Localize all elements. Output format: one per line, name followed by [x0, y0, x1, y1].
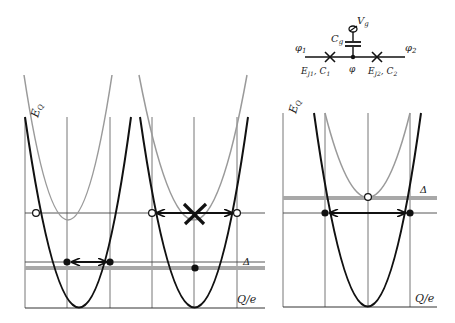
- phi-label: φ: [349, 64, 356, 74]
- left-energy-plot: EQ Δ Q/e: [24, 75, 265, 308]
- state-point-filled: [406, 209, 413, 216]
- gate-capacitor-icon: [345, 42, 361, 46]
- state-point-filled: [321, 209, 328, 216]
- state-point-open: [234, 210, 241, 217]
- phi2-label: φ2: [405, 42, 417, 55]
- state-point-open: [365, 194, 372, 201]
- diagram-canvas: Vg Cg φ1 φ2 φ EJ1, C1 EJ2, C2: [0, 0, 455, 323]
- right-delta-label: Δ: [419, 184, 427, 195]
- circuit-schematic: Vg Cg φ1 φ2 φ EJ1, C1 EJ2, C2: [295, 15, 417, 78]
- left-gap-band: [25, 266, 265, 270]
- gate-capacitance-label: Cg: [331, 33, 344, 46]
- junction2-label: EJ2, C2: [367, 66, 397, 78]
- gate-voltage-label: Vg: [357, 15, 369, 28]
- right-black-parabola: [314, 113, 421, 307]
- voltage-source-icon: [349, 26, 357, 32]
- right-y-axis-label: EQ: [286, 98, 303, 116]
- state-point-open: [33, 210, 40, 217]
- right-gray-parabola: [325, 113, 410, 198]
- left-delta-label: Δ: [242, 256, 250, 267]
- right-x-axis-label: Q/e: [415, 292, 435, 305]
- right-energy-plot: EQ Δ Q/e: [283, 98, 437, 307]
- state-point-filled: [63, 258, 70, 265]
- junction1-label: EJ1, C1: [300, 66, 330, 78]
- state-point-filled: [191, 264, 198, 271]
- state-point-filled: [106, 258, 113, 265]
- state-point-open: [149, 210, 156, 217]
- left-gray-parabola-1: [24, 75, 112, 220]
- right-gap-band: [283, 196, 437, 200]
- left-gray-parabola-2: [139, 75, 247, 220]
- left-x-axis-label: Q/e: [237, 293, 257, 306]
- phi1-label: φ1: [295, 42, 306, 55]
